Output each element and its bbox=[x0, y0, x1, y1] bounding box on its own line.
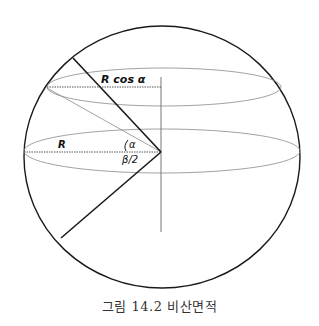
equator-circle bbox=[24, 129, 300, 173]
sphere-diagram: R cos α R α β/2 bbox=[0, 0, 319, 326]
alpha-arc bbox=[125, 140, 128, 151]
label-alpha: α bbox=[129, 139, 136, 150]
figure-caption: 그림 14.2 비산면적 bbox=[0, 296, 319, 315]
label-radius: R bbox=[58, 139, 66, 150]
lower-boundary-line bbox=[61, 152, 161, 238]
label-beta-half: β/2 bbox=[121, 154, 138, 165]
sphere-outline bbox=[24, 26, 300, 288]
label-r-cos-alpha: R cos α bbox=[101, 73, 146, 86]
